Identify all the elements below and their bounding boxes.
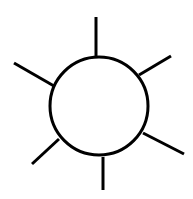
- spoke-upper-right: [139, 56, 171, 75]
- spoke-lower-left: [32, 139, 59, 164]
- sun-diagram: [0, 0, 193, 199]
- spoke-upper-left: [14, 63, 54, 86]
- spokes-group: [14, 17, 184, 190]
- spoke-lower-right: [143, 133, 184, 154]
- circle-hub: [50, 57, 148, 155]
